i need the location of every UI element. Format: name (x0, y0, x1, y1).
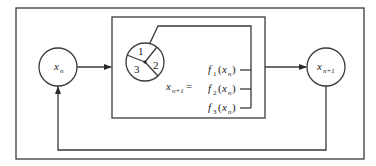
lhs-var: x (165, 80, 171, 92)
output-node-sub: n+1 (323, 67, 335, 75)
lhs-equals: = (186, 80, 192, 92)
input-node-sub: n (60, 67, 64, 75)
selector-wheel: 1 2 3 (126, 43, 164, 81)
f3-index: 3 (213, 108, 217, 116)
function-f1: f 1 ( x n ) (208, 63, 251, 78)
f1-index: 1 (213, 70, 217, 78)
selector-linkage (150, 26, 251, 108)
function-f3: f 3 ( x n ) (208, 101, 251, 116)
sector-1-label: 1 (138, 45, 144, 57)
f2-paren-close: ) (232, 82, 236, 95)
f3-arg: x (221, 101, 227, 113)
sector-2-label: 2 (153, 59, 159, 71)
f2-index: 2 (213, 89, 217, 97)
equation-lhs: x n+1 = (165, 80, 192, 95)
output-node-var: x (316, 60, 322, 72)
input-node: x n (39, 48, 77, 86)
f3-paren-close: ) (232, 101, 236, 114)
f1-arg: x (221, 63, 227, 75)
ifs-diagram: x n 1 2 3 x n+1 = f 1 ( x n ) f 2 ( x n … (0, 0, 376, 166)
f2-arg: x (221, 82, 227, 94)
lhs-sub: n+1 (172, 87, 184, 95)
function-f2: f 2 ( x n ) (208, 82, 251, 97)
output-node: x n+1 (307, 48, 345, 86)
f1-paren-close: ) (232, 63, 236, 76)
sector-3-label: 3 (134, 63, 140, 75)
input-node-var: x (53, 60, 59, 72)
